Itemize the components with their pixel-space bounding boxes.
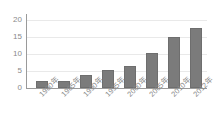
bar-2012: [190, 28, 202, 88]
y-tick-label: 20: [13, 16, 22, 24]
y-tick-label: 0: [18, 84, 22, 92]
bar-chart: 20 15 10 5 0 1980年 1985年 1990年 1995年 200…: [0, 0, 213, 130]
x-axis-tick-labels: 1980年 1985年 1990年 1995年 2000年 2005年 2010…: [27, 89, 207, 130]
y-tick-label: 5: [18, 67, 22, 75]
y-axis-tick-labels: 20 15 10 5 0: [0, 0, 24, 130]
y-tick-label: 10: [13, 50, 22, 58]
y-tick-label: 15: [13, 33, 22, 41]
